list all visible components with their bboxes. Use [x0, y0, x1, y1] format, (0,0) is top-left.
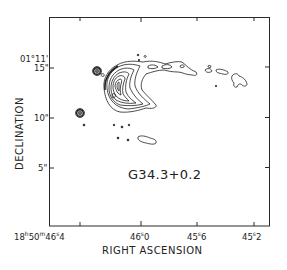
- ra-seconds: 45: [187, 232, 198, 242]
- ra-tick-45-6: 45s6: [187, 231, 206, 242]
- ra-tick-46-0: 46s0: [130, 231, 149, 242]
- compact-source-1: [93, 67, 105, 77]
- ra-seconds: 45: [242, 232, 253, 242]
- source-label: G34.3+0.2: [128, 168, 201, 181]
- ra-tick-46-4: 18h50m46s4: [14, 231, 65, 242]
- compact-source-2: [76, 109, 85, 118]
- plot-frame: [50, 18, 270, 227]
- x-axis-title: RIGHT ASCENSION: [102, 246, 203, 256]
- ra-tick-45-2: 45s2: [242, 231, 261, 242]
- y-ticks: [50, 67, 270, 168]
- dec-tick-15: 15": [34, 64, 49, 73]
- ra-frac: 4: [59, 232, 64, 242]
- contours: [76, 54, 248, 144]
- southern-blob: [138, 136, 156, 144]
- dec-tick-5: 5": [38, 164, 47, 173]
- contour-west-1: [205, 69, 212, 73]
- y-axis-title: DECLINATION: [15, 97, 25, 170]
- ra-frac: 6: [201, 232, 206, 242]
- ra-seconds: 46: [45, 232, 56, 242]
- x-ticks: [80, 18, 254, 227]
- ra-seconds: 46: [130, 232, 141, 242]
- ra-frac: 0: [144, 232, 149, 242]
- ra-hours: 18: [14, 232, 25, 242]
- dec-tick-10: 10": [34, 114, 49, 123]
- ra-minutes: 50: [29, 232, 40, 242]
- contour-west-3: [232, 74, 247, 88]
- contour-west-2: [216, 69, 228, 74]
- ra-frac: 2: [256, 232, 261, 242]
